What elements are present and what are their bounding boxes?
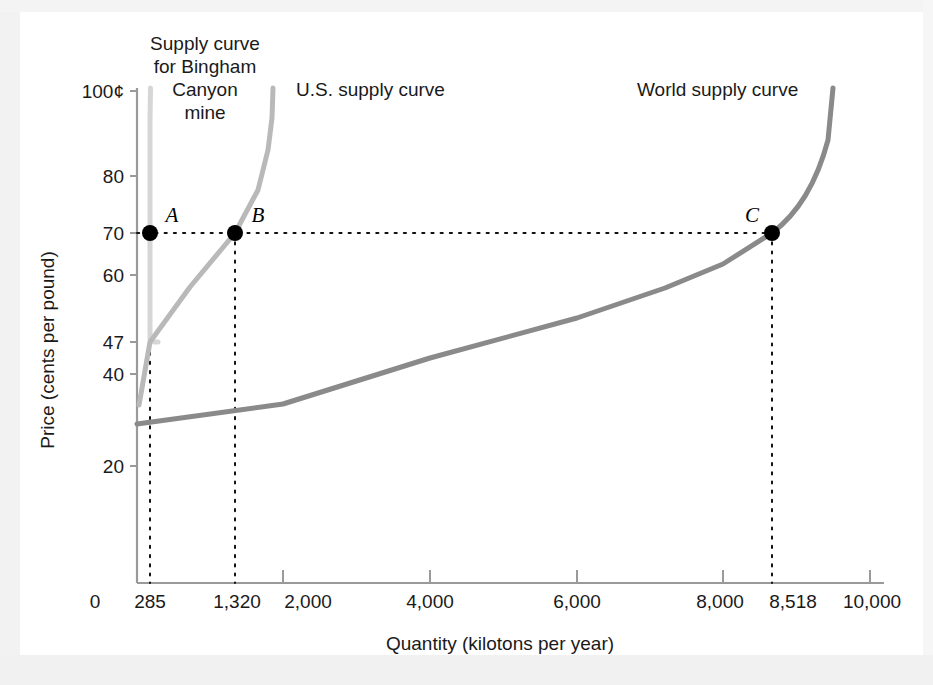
x-tick-label-0: 0	[90, 591, 101, 612]
curve-label-bingham-line-1: Supply curve	[150, 33, 260, 54]
x-tick-label-1320: 1,320	[213, 591, 261, 612]
curve-label-world-supply: World supply curve	[637, 79, 798, 100]
x-axis-ticks	[283, 570, 870, 583]
y-tick-label-100: 100¢	[82, 81, 124, 102]
data-point-b[interactable]	[227, 225, 243, 241]
y-tick-label-20: 20	[103, 456, 124, 477]
supply-curve-chart: 100¢ 80 70 60 47 40 20 0 285 1,320 2,000…	[0, 0, 933, 685]
curve-label-us-supply: U.S. supply curve	[296, 79, 445, 100]
x-tick-label-10000: 10,000	[843, 591, 901, 612]
curve-label-bingham-line-4: mine	[184, 102, 225, 123]
y-axis-title: Price (cents per pound)	[37, 251, 58, 449]
data-point-label-a: A	[164, 203, 179, 227]
y-tick-label-47: 47	[103, 332, 124, 353]
y-tick-label-80: 80	[103, 166, 124, 187]
data-point-label-c: C	[745, 203, 760, 227]
curve-us-supply	[139, 88, 273, 405]
x-tick-label-8000: 8,000	[696, 591, 744, 612]
data-point-label-b: B	[252, 203, 265, 227]
x-tick-label-2000: 2,000	[284, 591, 332, 612]
figure-container: 100¢ 80 70 60 47 40 20 0 285 1,320 2,000…	[0, 0, 933, 685]
curve-label-bingham-line-2: for Bingham	[154, 56, 256, 77]
x-tick-label-285: 285	[134, 591, 166, 612]
y-tick-label-40: 40	[103, 364, 124, 385]
data-point-a[interactable]	[142, 225, 158, 241]
y-tick-label-70: 70	[103, 223, 124, 244]
y-tick-label-60: 60	[103, 265, 124, 286]
x-tick-label-6000: 6,000	[553, 591, 601, 612]
x-axis-title: Quantity (kilotons per year)	[386, 633, 614, 654]
curve-bingham-canyon	[150, 88, 158, 342]
curve-world-supply	[137, 88, 833, 424]
curve-label-bingham-line-3: Canyon	[172, 79, 238, 100]
x-tick-label-8518: 8,518	[769, 591, 817, 612]
x-tick-label-4000: 4,000	[406, 591, 454, 612]
data-point-c[interactable]	[764, 225, 780, 241]
